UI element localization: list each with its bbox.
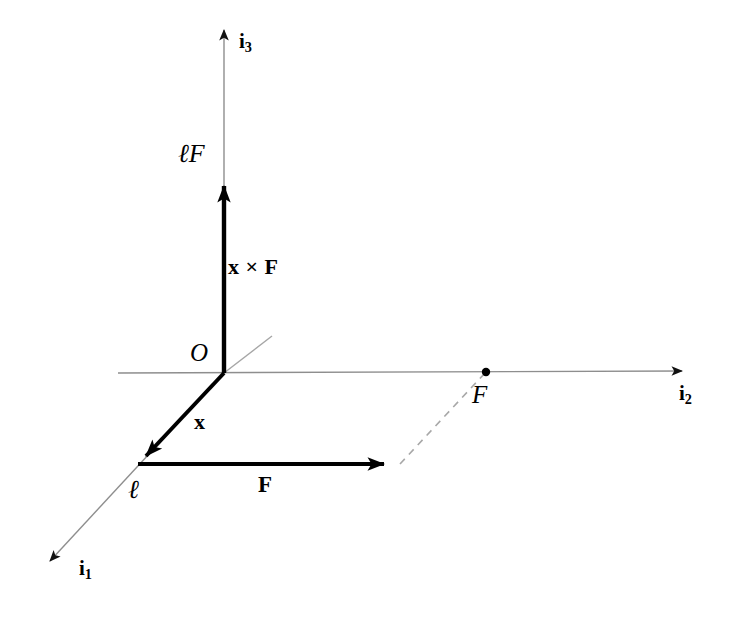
label-origin-O: O: [190, 340, 208, 365]
label-axis-i2-subscript: 2: [685, 391, 692, 407]
label-axis-i1-base: i: [79, 556, 85, 580]
label-axis-i3-base: i: [239, 29, 245, 53]
label-x-cross-F: x × F: [228, 256, 278, 278]
label-axis-i1: i1: [79, 558, 92, 579]
label-axis-i3-subscript: 3: [245, 39, 252, 55]
axis-i2-line: [118, 371, 682, 373]
axis-group: [50, 30, 682, 561]
label-vector-x: x: [194, 411, 205, 433]
point-marker-F: [482, 368, 490, 376]
diagram-canvas: [0, 0, 732, 619]
label-axis-i3: i3: [239, 31, 252, 52]
vector-diagram-figure: ℓF x × F O x ℓ F F i1 i2 i3: [0, 0, 732, 619]
vector-position-x: [146, 373, 224, 456]
axis-i1-line-positive: [224, 336, 272, 373]
label-point-ell: ℓ: [128, 477, 139, 503]
label-point-F: F: [472, 382, 487, 407]
vector-group: [138, 186, 384, 464]
label-axis-i1-subscript: 1: [85, 566, 92, 582]
label-vector-F: F: [258, 473, 272, 496]
label-axis-i2-base: i: [679, 381, 685, 405]
label-lF: ℓF: [178, 141, 205, 167]
label-axis-i2: i2: [679, 383, 692, 404]
